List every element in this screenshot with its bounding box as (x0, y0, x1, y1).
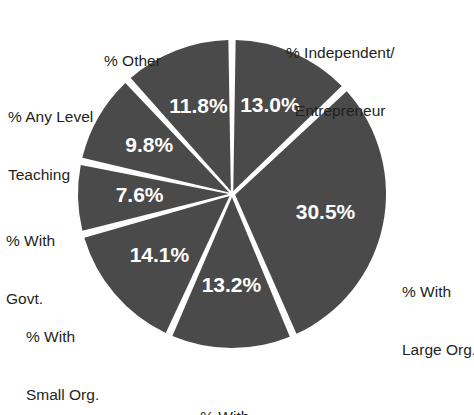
category-label-small-org-line2: Small Org. (26, 385, 99, 404)
category-label-small-org: % With Small Org. (26, 288, 99, 415)
category-label-independent: % Independent/ Entrepreneur (286, 4, 395, 159)
category-label-independent-line2: Entrepreneur (286, 101, 395, 120)
category-label-other: % Other (104, 12, 161, 109)
slice-value-small-org: 14.1% (130, 243, 190, 266)
category-label-independent-line1: % Independent/ (286, 43, 395, 62)
category-label-large-org-line2: Large Org. (402, 340, 474, 359)
slice-value-medium-org: 13.2% (202, 273, 262, 296)
category-label-medium-org: % With Medium Org. (180, 368, 270, 415)
category-label-teaching-line1: % Any Level (8, 107, 93, 126)
slice-value-govt: 7.6% (116, 183, 164, 206)
pie-chart: 13.0% 30.5% 13.2% 14.1% 7.6% 9.8% 11.8% … (0, 0, 474, 415)
category-label-teaching-line2: Teaching (8, 165, 93, 184)
category-label-govt-line1: % With (6, 231, 55, 250)
slice-value-large-org: 30.5% (296, 200, 356, 223)
category-label-small-org-line1: % With (26, 327, 99, 346)
slice-value-other: 11.8% (169, 94, 228, 117)
category-label-large-org-line1: % With (402, 282, 474, 301)
slice-value-teaching: 9.8% (125, 133, 173, 156)
category-label-large-org: % With Large Org. (402, 243, 474, 398)
category-label-medium-org-line1: % With (180, 407, 270, 415)
category-label-other-line1: % Other (104, 51, 161, 70)
